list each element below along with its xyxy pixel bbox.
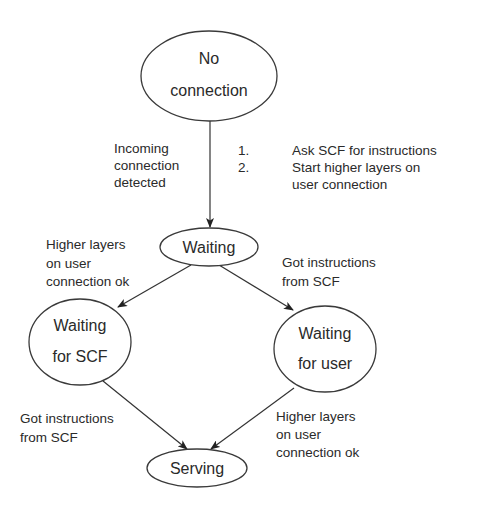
state-waiting-for-scf-shape bbox=[29, 299, 131, 385]
label-scf-to-serving-line1: Got instructions bbox=[20, 411, 114, 426]
action-1-text: Ask SCF for instructions bbox=[292, 143, 437, 158]
label-waiting-to-scf-line3: connection ok bbox=[46, 274, 130, 289]
label-incoming-condition: Incoming connection detected bbox=[114, 141, 179, 190]
state-no-connection-line1: No bbox=[199, 50, 220, 67]
state-serving-label: Serving bbox=[170, 460, 224, 477]
label-incoming-line2: connection bbox=[114, 158, 179, 173]
state-waiting-for-user-line1: Waiting bbox=[299, 325, 352, 342]
state-waiting-for-user: Waiting for user bbox=[274, 306, 376, 392]
label-incoming-actions: 1. Ask SCF for instructions 2. Start hig… bbox=[238, 143, 437, 192]
state-no-connection: No connection bbox=[141, 31, 277, 121]
state-waiting-for-scf: Waiting for SCF bbox=[29, 299, 131, 385]
state-serving: Serving bbox=[147, 449, 247, 487]
action-2-text-line2: user connection bbox=[292, 177, 387, 192]
state-no-connection-shape bbox=[141, 31, 277, 121]
state-waiting-for-user-line2: for user bbox=[298, 355, 353, 372]
label-user-to-serving-line2: on user bbox=[276, 427, 322, 442]
state-waiting-for-scf-line2: for SCF bbox=[52, 348, 107, 365]
label-waiting-to-user-line2: from SCF bbox=[282, 274, 340, 289]
action-2-number: 2. bbox=[238, 160, 249, 175]
action-1-number: 1. bbox=[238, 143, 249, 158]
label-scf-to-serving: Got instructions from SCF bbox=[20, 411, 114, 445]
action-2-text-line1: Start higher layers on bbox=[292, 160, 420, 175]
state-waiting-label: Waiting bbox=[183, 239, 236, 256]
label-incoming-line1: Incoming bbox=[114, 141, 169, 156]
label-incoming-line3: detected bbox=[114, 175, 166, 190]
label-scf-to-serving-line2: from SCF bbox=[20, 430, 78, 445]
label-waiting-to-scf-line1: Higher layers bbox=[46, 237, 126, 252]
state-diagram: No connection Waiting Waiting for SCF Wa… bbox=[0, 0, 481, 514]
label-user-to-serving-line1: Higher layers bbox=[276, 409, 356, 424]
edge-waiting-for-scf-to-serving bbox=[103, 381, 187, 449]
label-waiting-to-scf-line2: on user bbox=[46, 256, 92, 271]
label-waiting-to-user-line1: Got instructions bbox=[282, 255, 376, 270]
label-user-to-serving-line3: connection ok bbox=[276, 445, 360, 460]
label-waiting-to-scf: Higher layers on user connection ok bbox=[46, 237, 130, 289]
label-user-to-serving: Higher layers on user connection ok bbox=[276, 409, 360, 460]
label-waiting-to-user: Got instructions from SCF bbox=[282, 255, 376, 289]
state-no-connection-line2: connection bbox=[170, 82, 247, 99]
state-waiting-for-scf-line1: Waiting bbox=[54, 317, 107, 334]
state-waiting: Waiting bbox=[160, 228, 258, 266]
state-waiting-for-user-shape bbox=[274, 306, 376, 392]
